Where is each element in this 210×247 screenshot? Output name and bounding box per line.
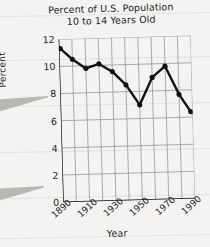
y-tick-4: 4 [32,143,58,155]
grid-horizontal-lines [59,36,195,203]
chart-grid-and-series [59,36,195,203]
plot-area [59,36,195,203]
y-tick-2: 2 [32,170,58,182]
y-tick-8: 8 [30,88,56,100]
line-chart-figure: Percent of U.S. Population 10 to 14 Year… [0,0,210,247]
y-tick-6: 6 [31,115,57,127]
chart-title: Percent of U.S. Population 10 to 14 Year… [31,1,192,29]
y-tick-12: 12 [28,34,54,46]
y-axis-label: Percent [0,22,9,118]
y-axis-tick-labels: 12 10 8 6 4 2 0 [27,39,60,203]
y-tick-10: 10 [29,61,55,73]
